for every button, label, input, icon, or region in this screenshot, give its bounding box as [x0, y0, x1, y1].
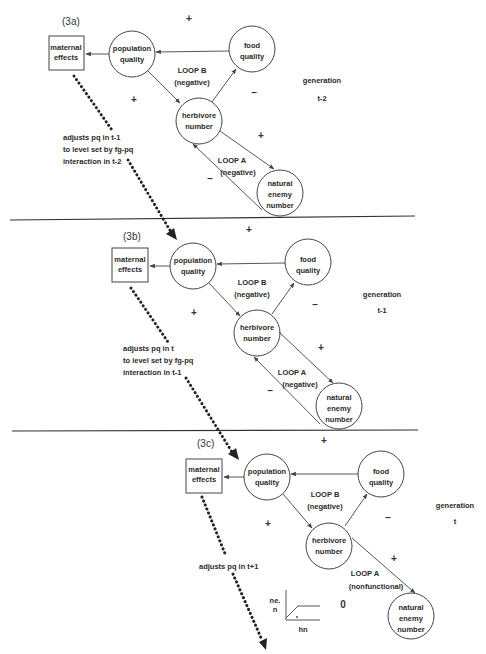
- arrow-hn-to-fq: [212, 69, 236, 102]
- node-label: number: [315, 547, 343, 556]
- node-label: food: [300, 255, 317, 264]
- sign-positive: +: [186, 13, 192, 24]
- arrowhead-icon: [259, 638, 267, 650]
- inset-ylabel: n: [273, 605, 278, 614]
- annotation-line: adjusts pq in t: [123, 344, 174, 353]
- sign-positive: +: [391, 553, 397, 564]
- arrowhead-icon: [166, 228, 177, 240]
- arrow-fq-to-pq: [217, 263, 285, 264]
- generation-label: generation: [303, 76, 342, 85]
- loop-b-label: LOOP B: [311, 490, 340, 499]
- inset-ylabel: ne.: [270, 596, 281, 605]
- herbivore-number-node: [234, 310, 280, 356]
- node-label: enemy: [399, 614, 424, 623]
- maternal-effects-label: effects: [54, 53, 78, 62]
- loop-b-label: LOOP B: [238, 278, 267, 287]
- inset-xlabel: hn: [298, 625, 308, 634]
- herbivore-number-node: [306, 523, 352, 569]
- arrow-fq-to-pq: [156, 51, 229, 52]
- panel-label: (3c): [197, 438, 214, 449]
- arrow-hn-to-fq: [272, 283, 294, 314]
- population-quality-node: [170, 243, 216, 289]
- panel-divider-1: [10, 216, 415, 220]
- annotation-line: adjusts pq in t-1: [63, 133, 121, 142]
- node-label: number: [266, 201, 294, 210]
- node-label: natural: [398, 603, 423, 612]
- node-label: food: [373, 467, 390, 476]
- node-label: population: [248, 467, 287, 476]
- loop-b-sign: (negative): [307, 502, 343, 511]
- maternal-effects-label: effects: [192, 475, 216, 484]
- node-label: number: [397, 625, 425, 634]
- panel-label: (3a): [62, 16, 80, 27]
- node-label: quality: [240, 52, 265, 61]
- generation-value: t: [454, 517, 457, 526]
- sign-negative: –: [251, 87, 257, 98]
- panel-3a: (3a) maternal effects population quality…: [49, 13, 342, 216]
- node-label: natural: [267, 179, 292, 188]
- node-label: natural: [326, 393, 351, 402]
- sign-negative: –: [267, 385, 273, 396]
- loop-b-sign: (negative): [234, 290, 270, 299]
- annotation-line: to level set by fg-pq: [123, 356, 194, 365]
- annotation-line: to level set by fg-pq: [63, 145, 134, 154]
- node-label: population: [113, 44, 152, 53]
- generation-label: generation: [436, 501, 475, 510]
- node-label: number: [185, 122, 213, 131]
- sign-positive: +: [191, 307, 197, 318]
- maternal-effect-dotted-arrow: [74, 76, 171, 232]
- generation-value: t-2: [317, 94, 326, 103]
- node-label: quality: [296, 266, 321, 275]
- loop-a-label: LOOP A: [218, 156, 247, 165]
- node-label: enemy: [268, 190, 293, 199]
- loop-a-sign: (nonfunctional): [349, 582, 404, 591]
- arrow-hn-to-fq: [345, 494, 367, 526]
- node-label: population: [174, 256, 213, 265]
- arrow-pq-to-hn: [148, 71, 180, 103]
- node-label: quality: [120, 55, 145, 64]
- arrow-pq-to-hn: [209, 283, 240, 316]
- maternal-effects-label: maternal: [188, 465, 219, 474]
- inset-graph: ne. n hn: [270, 590, 320, 634]
- loop-a-sign: (negative): [282, 380, 318, 389]
- node-label: herbivore: [312, 536, 346, 545]
- node-label: quality: [369, 478, 394, 487]
- generation-value: t-1: [377, 306, 386, 315]
- panel-3b: (3b) maternal effects population quality…: [112, 224, 402, 429]
- maternal-effects-label: maternal: [114, 255, 145, 264]
- loop-a-sign: (negative): [220, 168, 256, 177]
- sign-positive: +: [246, 224, 252, 235]
- population-quality-node: [244, 454, 290, 500]
- node-label: number: [325, 415, 353, 424]
- arrow-ne-to-hn: [193, 144, 262, 210]
- panel-label: (3b): [123, 231, 141, 242]
- loop-b-label: LOOP B: [178, 66, 207, 75]
- sign-positive: +: [265, 518, 271, 529]
- loop-a-label: LOOP A: [278, 368, 307, 377]
- sign-positive: +: [321, 435, 327, 446]
- zero-effect-label: 0: [340, 599, 346, 610]
- maternal-effects-label: effects: [118, 265, 142, 274]
- generation-label: generation: [363, 290, 402, 299]
- node-label: herbivore: [240, 323, 274, 332]
- annotation-line: adjusts pq in t+1: [199, 562, 258, 571]
- sign-positive: +: [318, 342, 324, 353]
- loop-b-sign: (negative): [174, 78, 210, 87]
- maternal-effects-label: maternal: [50, 43, 81, 52]
- panel-divider-2: [12, 430, 418, 431]
- annotation-line: interaction in t-1: [123, 368, 181, 377]
- sign-negative: –: [207, 173, 213, 184]
- sign-negative: –: [312, 299, 318, 310]
- arrowhead-icon: [228, 448, 239, 460]
- annotation-line: interaction in t-2: [63, 157, 121, 166]
- loop-a-label: LOOP A: [351, 569, 380, 578]
- feedback-loop-diagram: (3a) maternal effects population quality…: [0, 0, 486, 654]
- node-label: quality: [255, 478, 280, 487]
- arrow-pq-to-hn: [283, 494, 312, 528]
- sign-positive: +: [258, 130, 264, 141]
- sign-positive: +: [131, 94, 137, 105]
- population-quality-node: [109, 31, 155, 77]
- node-label: quality: [181, 267, 206, 276]
- node-label: herbivore: [182, 111, 216, 120]
- node-label: enemy: [327, 404, 352, 413]
